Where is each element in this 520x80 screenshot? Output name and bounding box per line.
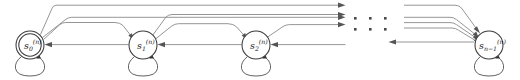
edge-s2-to-far-right — [266, 25, 339, 39]
state-node-s2[interactable]: s2(n) — [242, 31, 270, 59]
ellipsis-dot — [384, 17, 387, 20]
edge-resume-lower-to-sn1 — [404, 23, 476, 38]
arrowhead-s2-far-right — [338, 22, 346, 27]
state-s2-subscript: 2 — [254, 45, 259, 52]
state-s2-superscript: (n) — [259, 38, 268, 45]
state-node-sn1[interactable]: sn−1(n) — [475, 31, 506, 59]
ellipsis-dot — [354, 28, 357, 31]
ellipsis-dot — [384, 28, 387, 31]
state-s1-subscript: 1 — [142, 45, 146, 52]
state-s0-subscript: 0 — [29, 45, 33, 52]
edge-resume-mid-to-sn1 — [404, 17, 476, 35]
arrowhead-s0-far-right — [338, 3, 346, 8]
edge-s0-to-s2-upper — [43, 17, 339, 37]
state-machine-diagram: s0(n) s1(n) s2(n) sn−1(n) — [0, 0, 520, 80]
ellipsis-dot — [354, 17, 357, 20]
state-sn1-superscript: (n) — [497, 38, 506, 45]
state-node-s0[interactable]: s0(n) — [16, 31, 44, 59]
arrowhead-into-s0-right — [45, 42, 53, 47]
edge-s0-to-sn1-top — [41, 5, 339, 34]
arrowhead-into-sn1-top — [474, 26, 481, 33]
state-node-s1[interactable]: s1(n) — [129, 31, 157, 59]
edge-s1-to-s2 — [156, 24, 246, 39]
edge-resume-bottom-to-sn1 — [404, 28, 477, 42]
state-s0-superscript: (n) — [33, 38, 42, 45]
states-continuation-ellipsis — [354, 17, 387, 31]
state-sn1-subscript: n−1 — [484, 45, 497, 52]
ellipsis-dot — [369, 28, 372, 31]
arrowhead-into-s1-right — [158, 42, 166, 47]
edge-s0-to-s1 — [44, 23, 132, 40]
fsm-canvas: s0(n) s1(n) s2(n) sn−1(n) — [0, 0, 520, 80]
arrowhead-into-s2-right — [271, 42, 279, 47]
arrowhead-sn1-leftward — [389, 39, 397, 44]
ellipsis-dot — [369, 17, 372, 20]
state-s1-superscript: (n) — [146, 38, 155, 45]
